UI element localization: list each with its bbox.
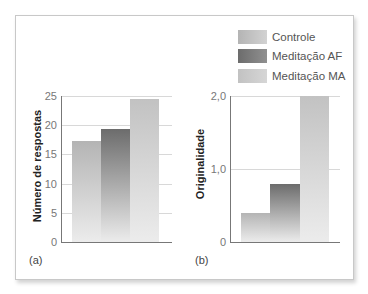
y-tick-label: 2,0: [202, 90, 226, 102]
legend-swatch-controle: [238, 30, 267, 44]
y-tick-label: 0: [33, 236, 57, 248]
y-tick-label: 0: [202, 236, 226, 248]
legend-swatch-meditacao-af: [238, 49, 267, 63]
y-tick-label: 1,0: [202, 163, 226, 175]
bar-controle: [241, 213, 270, 242]
y-tick-label: 20: [33, 119, 57, 131]
bar-medita-o-af: [270, 184, 299, 242]
bar-medita-o-ma: [300, 96, 329, 242]
x-axis-b: [230, 242, 340, 243]
x-axis-a: [61, 242, 172, 243]
y-tick-label: 25: [33, 90, 57, 102]
y-tick-label: 15: [33, 148, 57, 160]
y-tick-label: 5: [33, 207, 57, 219]
y-tick-label: 10: [33, 178, 57, 190]
gridline: [61, 96, 172, 97]
legend-label: Meditação AF: [272, 49, 342, 63]
bar-medita-o-af: [101, 129, 130, 242]
y-axis-b: [230, 96, 231, 243]
panel-label-a: (a): [29, 254, 42, 266]
panel-label-b: (b): [195, 254, 208, 266]
y-axis-a: [61, 96, 62, 243]
bar-controle: [72, 141, 101, 242]
legend-swatch-meditacao-ma: [238, 69, 267, 83]
legend-label: Meditação MA: [272, 69, 346, 83]
legend-label: Controle: [272, 30, 315, 44]
bar-medita-o-ma: [130, 99, 159, 242]
